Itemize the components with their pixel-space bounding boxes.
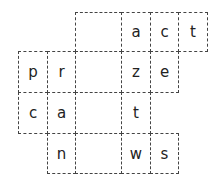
grid-cell[interactable]: t xyxy=(121,92,151,134)
grid-cell[interactable]: z xyxy=(121,51,151,93)
grid-cell[interactable]: p xyxy=(18,51,48,93)
grid-cell-empty[interactable] xyxy=(75,133,122,174)
grid-cell-empty[interactable] xyxy=(75,51,122,93)
grid-cell[interactable]: a xyxy=(47,92,76,134)
grid-cell[interactable]: t xyxy=(178,12,208,52)
grid-cell[interactable]: n xyxy=(47,133,76,174)
grid-cell[interactable]: w xyxy=(121,133,151,174)
grid-cell[interactable]: c xyxy=(150,12,179,52)
grid-cell[interactable]: c xyxy=(18,92,48,134)
grid-cell-empty[interactable] xyxy=(75,12,122,52)
word-grid: actprzecatnws xyxy=(0,0,222,183)
grid-cell[interactable]: r xyxy=(47,51,76,93)
grid-cell[interactable]: a xyxy=(121,12,151,52)
grid-cell[interactable]: e xyxy=(150,51,179,93)
grid-cell-empty[interactable] xyxy=(75,92,122,134)
grid-cell[interactable]: s xyxy=(150,133,179,174)
